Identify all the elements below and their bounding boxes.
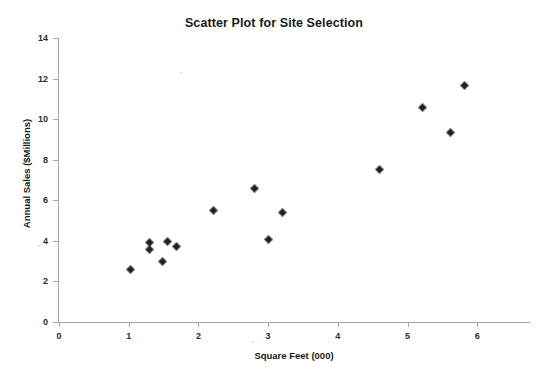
x-tick-mark xyxy=(129,322,130,327)
x-tick-mark xyxy=(338,322,339,327)
y-tick-mark xyxy=(53,281,58,282)
x-tick-label: 4 xyxy=(323,332,353,341)
x-tick-mark xyxy=(477,322,478,327)
x-axis-label: Square Feet (000) xyxy=(58,350,530,361)
chart-title: Scatter Plot for Site Selection xyxy=(0,16,548,30)
y-tick-label: 0 xyxy=(8,318,48,327)
x-tick-label: 2 xyxy=(183,332,213,341)
y-tick-label: 2 xyxy=(8,277,48,286)
data-point-marker xyxy=(251,185,258,192)
scatter-plot-figure: Scatter Plot for Site Selection 02468101… xyxy=(0,0,548,381)
y-tick-mark xyxy=(53,241,58,242)
x-tick-label: 0 xyxy=(44,332,74,341)
y-tick-mark xyxy=(53,79,58,80)
x-tick-label: 6 xyxy=(462,332,492,341)
data-point-marker xyxy=(446,129,453,136)
y-axis-label: Annual Sales ($Millions) xyxy=(21,104,32,244)
y-tick-mark xyxy=(53,322,58,323)
x-tick-mark xyxy=(198,322,199,327)
y-tick-mark xyxy=(53,38,58,39)
x-tick-mark xyxy=(268,322,269,327)
data-point-marker xyxy=(159,258,166,265)
data-point-marker xyxy=(209,207,216,214)
x-tick-label: 5 xyxy=(393,332,423,341)
y-tick-mark xyxy=(53,200,58,201)
y-tick-label: 14 xyxy=(8,34,48,43)
x-tick-label: 3 xyxy=(253,332,283,341)
plot-area xyxy=(59,38,519,322)
y-tick-mark xyxy=(53,119,58,120)
x-tick-mark xyxy=(408,322,409,327)
y-tick-label: 12 xyxy=(8,75,48,84)
scan-speck xyxy=(180,72,182,74)
scan-speck xyxy=(38,245,40,247)
x-tick-mark xyxy=(59,322,60,327)
scan-speck xyxy=(252,341,254,343)
y-tick-mark xyxy=(53,160,58,161)
x-tick-label: 1 xyxy=(114,332,144,341)
